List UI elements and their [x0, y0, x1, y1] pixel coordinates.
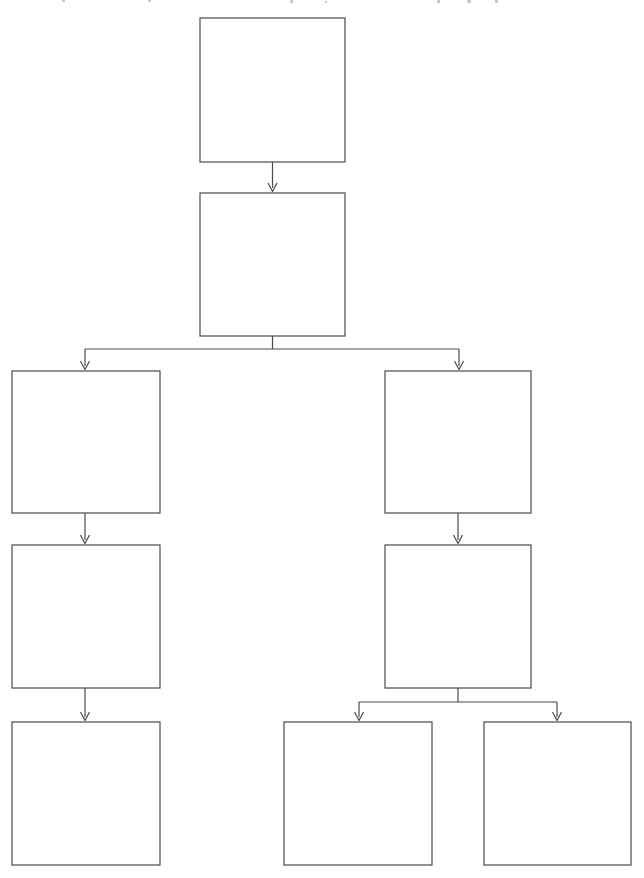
node-group	[12, 18, 631, 865]
node-box-1[interactable]	[200, 18, 345, 162]
node-box-4[interactable]	[12, 545, 160, 688]
diagram-canvas	[0, 0, 644, 878]
edge-node6-to-node7	[454, 513, 463, 544]
node-box-3[interactable]	[12, 371, 160, 513]
node-box-7[interactable]	[385, 545, 531, 688]
edge-node7-to-node9	[553, 702, 562, 721]
edge-node4-to-node5	[81, 688, 90, 721]
edge-node1-to-node2	[268, 162, 277, 192]
edge-node2-to-node3	[81, 349, 90, 370]
node-box-6[interactable]	[385, 371, 531, 513]
edge-node7-to-node8	[355, 702, 364, 721]
edge-node3-to-node4	[81, 513, 90, 544]
node-box-5[interactable]	[12, 722, 160, 865]
edge-node2-to-node6	[455, 349, 464, 370]
flowchart-svg	[0, 0, 644, 878]
node-box-9[interactable]	[484, 722, 631, 865]
node-box-8[interactable]	[284, 722, 432, 865]
node-box-2[interactable]	[200, 193, 345, 336]
